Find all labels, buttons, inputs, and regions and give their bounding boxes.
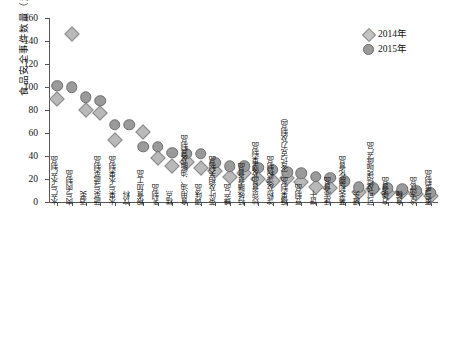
y-axis-tick-label: 40	[29, 152, 39, 162]
y-axis-tick-label: 0	[33, 198, 38, 208]
data-point	[51, 80, 63, 92]
legend-item-2015: 2015年	[362, 42, 407, 57]
y-axis-tick-label: 100	[24, 83, 38, 93]
chart-legend: 2014年 2015年	[362, 27, 407, 57]
data-point	[95, 95, 107, 107]
data-point	[107, 132, 123, 148]
x-axis-tick-label: 蜂产品	[224, 185, 232, 206]
x-axis-tick-label: 豆制品	[296, 185, 304, 206]
data-point	[193, 160, 209, 176]
x-axis-tick-label: 水果与水果制品	[109, 157, 117, 206]
y-axis-tick: 120	[45, 64, 50, 65]
data-point	[152, 141, 164, 153]
data-point	[66, 81, 78, 93]
x-axis-label-group: 水产与水产制品肉与肉制品酒类蔬菜与蔬菜制品水果与水果制品饮料粮食加工品乳制品糕点…	[49, 206, 438, 356]
data-point	[164, 159, 180, 175]
x-axis-tick-label: 粮食加工品	[138, 171, 146, 206]
data-point	[80, 92, 92, 104]
x-axis-tick-label: 饼干	[311, 192, 319, 206]
x-axis-tick-label: 薯类和膨化食品	[339, 157, 347, 206]
data-point	[93, 106, 109, 122]
data-point	[296, 168, 308, 180]
food-safety-incident-scatter-chart: 食品安全事件数量（起） 020406080100120140160 水产与水产制…	[0, 0, 469, 364]
y-axis-tick: 60	[45, 133, 50, 134]
x-axis-tick-label: 罐头	[354, 192, 362, 206]
y-axis-tick: 140	[45, 41, 50, 42]
legend-label: 2014年	[378, 27, 407, 42]
x-axis-tick-label: 冷冻饮品	[411, 178, 419, 206]
data-point	[138, 141, 150, 153]
x-axis-tick-label: 可可及焙烤咖啡产品	[368, 143, 376, 206]
data-point	[310, 171, 322, 183]
y-axis-tick-label: 120	[24, 60, 38, 70]
y-axis-tick: 40	[45, 156, 50, 157]
x-axis-tick-label: 调味品	[196, 185, 204, 206]
x-axis-tick-label: 饮料	[124, 192, 132, 206]
y-axis-tick-label: 80	[29, 106, 39, 116]
data-point	[136, 124, 152, 140]
legend-label: 2015年	[378, 42, 407, 57]
y-axis-tick: 160	[45, 18, 50, 19]
y-axis-tick: 80	[45, 110, 50, 111]
circle-marker-icon	[362, 44, 375, 55]
legend-item-2014: 2014年	[362, 27, 407, 42]
data-point	[49, 91, 65, 107]
x-axis-tick-label: 食糖	[397, 192, 405, 206]
x-axis-tick-label: 酒类	[81, 192, 89, 206]
x-axis-tick-label: 炒货食品及坚果制品	[253, 143, 261, 206]
x-axis-tick-label: 糕点	[167, 192, 175, 206]
x-axis-tick-label: 蔬菜与蔬菜制品	[95, 157, 103, 206]
y-axis-tick-label: 140	[24, 37, 38, 47]
data-point	[224, 161, 236, 173]
x-axis-tick-label: 茶叶及相关制品	[210, 157, 218, 206]
x-axis-tick-label: 特殊膳食食品	[239, 164, 247, 206]
y-axis-tick-label: 60	[29, 129, 39, 139]
x-axis-tick-label: 速冻食品	[325, 178, 333, 206]
data-point	[78, 102, 94, 118]
y-axis-tick-label: 160	[24, 14, 38, 24]
x-axis-tick-label: 糖果制品（含巧克力及制品）	[282, 115, 290, 206]
x-axis-tick-label: 水产与水产制品	[52, 157, 60, 206]
y-axis-tick: 100	[45, 87, 50, 88]
x-axis-tick-label: 淀粉及淀粉制品	[268, 157, 276, 206]
x-axis-tick-label: 乳制品	[153, 185, 161, 206]
data-point	[123, 119, 135, 131]
y-axis-tick: 20	[45, 179, 50, 180]
x-axis-tick-label: 蛋与蛋制品	[426, 171, 434, 206]
x-axis-tick-label: 肉与肉制品	[66, 171, 74, 206]
data-point	[64, 26, 80, 42]
data-point	[195, 148, 207, 160]
y-axis-tick-label: 20	[29, 175, 39, 185]
x-axis-tick-label: 食用油、油脂及其制品	[181, 136, 189, 206]
data-point	[109, 119, 121, 131]
data-point	[150, 151, 166, 167]
x-axis-tick-label: 方便食品	[383, 178, 391, 206]
diamond-marker-icon	[362, 30, 375, 40]
y-axis-tick: 0	[45, 202, 50, 203]
data-point	[166, 147, 178, 159]
